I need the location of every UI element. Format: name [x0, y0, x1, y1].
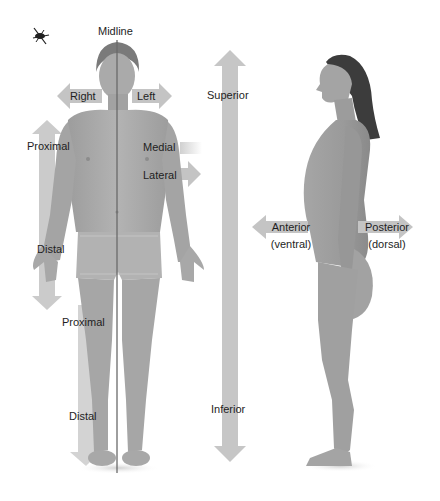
midline-label: Midline [98, 25, 133, 38]
side-body-figure [302, 55, 380, 472]
anatomy-diagram: Midline Right Left Superior Proximal Med… [0, 0, 440, 501]
proximal-leg-label: Proximal [62, 316, 105, 329]
inferior-label: Inferior [211, 403, 245, 416]
lateral-label: Lateral [143, 169, 177, 182]
right-label: Right [70, 90, 96, 103]
distal-arm-label: Distal [37, 243, 65, 256]
front-body-figure [33, 42, 204, 474]
bug-icon [33, 28, 49, 44]
left-label: Left [137, 90, 155, 103]
superior-label: Superior [207, 89, 249, 102]
distal-leg-label: Distal [69, 410, 97, 423]
medial-label: Medial [143, 141, 175, 154]
anterior-sublabel: (ventral) [266, 238, 316, 251]
posterior-sublabel: (dorsal) [359, 238, 415, 251]
posterior-label: Posterior [359, 221, 415, 234]
anterior-label: Anterior [266, 221, 316, 234]
superior-inferior-arrow [214, 50, 246, 462]
proximal-arm-label: Proximal [27, 140, 70, 153]
medial-arrow [180, 142, 202, 154]
